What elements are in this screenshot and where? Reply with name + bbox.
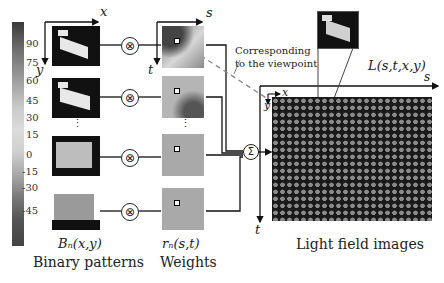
binary-pattern-2 [52, 78, 100, 118]
lightfield-image-grid [272, 97, 432, 221]
weights-t-axis-label: t [148, 62, 153, 77]
ellipsis: ⋮ [72, 117, 83, 130]
ellipsis: ⋮ [180, 117, 191, 130]
weight-map-3 [162, 134, 204, 176]
viewpoint-marker [174, 38, 180, 44]
sum-operator: Σ [243, 144, 259, 160]
lf-s-axis-label: s [424, 70, 430, 84]
viewpoint-marker [174, 146, 180, 152]
viewpoint-thumbnail [317, 11, 359, 49]
weight-map-4 [162, 188, 204, 230]
multiply-operator: ⊗ [121, 149, 139, 167]
weight-map-1 [162, 26, 204, 68]
multiply-operator: ⊗ [121, 37, 139, 55]
lightfield-title: Light field images [296, 236, 424, 252]
multiply-operator: ⊗ [121, 203, 139, 221]
binary-pattern-1 [52, 26, 100, 66]
lf-y-axis-label: y [264, 99, 270, 112]
correspondence-note-line1: Corresponding [235, 45, 311, 56]
weights-s-axis-label: s [206, 5, 213, 20]
lightfield-formula: L(s,t,x,y) [368, 58, 426, 73]
weights-formula: rₙ(s,t) [162, 236, 200, 251]
multiply-operator: ⊗ [121, 89, 139, 107]
binary-pattern-3 [52, 136, 100, 176]
correspondence-note-line2: to the viewpoint [235, 58, 317, 69]
weight-map-2 [162, 76, 204, 118]
viewpoint-marker [174, 88, 180, 94]
binary-formula: Bₙ(x,y) [58, 236, 102, 251]
binary-pattern-4 [52, 190, 100, 230]
weights-title: Weights [160, 254, 217, 270]
binary-x-axis-label: x [100, 4, 107, 19]
viewpoint-marker [174, 200, 180, 206]
binary-y-axis-label: y [36, 62, 43, 77]
binary-title: Binary patterns [33, 254, 144, 270]
lf-t-axis-label: t [255, 222, 260, 237]
